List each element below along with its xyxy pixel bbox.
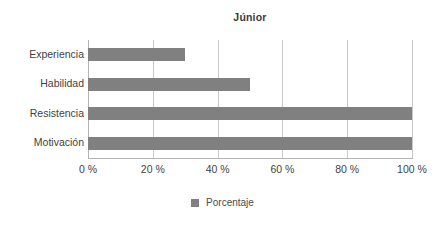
x-axis-tick-labels: 0 %20 %40 %60 %80 %100 % [0,163,445,179]
bar [88,78,250,91]
category-label: Motivación [0,136,84,148]
x-tick-label: 100 % [397,163,427,175]
bar-chart: Júnior ExperienciaHabilidadResistenciaMo… [0,0,445,226]
legend-label: Porcentaje [206,197,254,208]
x-tick-label: 40 % [206,163,230,175]
legend-swatch-icon [191,199,199,207]
x-tick-label: 20 % [141,163,165,175]
x-axis-line [88,158,413,159]
category-label: Experiencia [0,48,84,60]
x-tick-label: 0 % [79,163,97,175]
chart-title: Júnior [88,11,412,23]
plot-area [88,40,412,158]
x-tick-label: 60 % [270,163,294,175]
bar [88,107,412,120]
category-label: Resistencia [0,107,84,119]
x-tick-label: 80 % [335,163,359,175]
gridline-100 [412,40,413,158]
category-label: Habilidad [0,77,84,89]
bar [88,48,185,61]
chart-legend: Porcentaje [0,197,445,208]
y-axis-category-labels: ExperienciaHabilidadResistenciaMotivació… [0,40,84,158]
bars-layer [88,40,412,158]
bar [88,137,412,150]
